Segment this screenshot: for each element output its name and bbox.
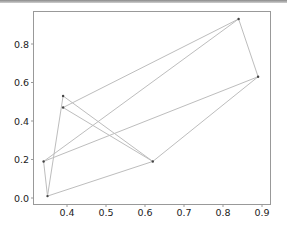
line-segment xyxy=(48,96,64,196)
y-tick-label: 0.8 xyxy=(14,39,29,50)
data-point xyxy=(257,76,259,78)
y-tick-label: 0.0 xyxy=(14,193,29,204)
data-point xyxy=(42,160,44,162)
data-point xyxy=(46,195,48,197)
line-chart: 0.40.50.60.70.80.9 0.00.20.40.60.8 xyxy=(0,0,287,226)
x-tick-label: 0.9 xyxy=(254,207,269,218)
line-segment xyxy=(44,161,48,196)
line-segment xyxy=(44,19,239,161)
line-segment xyxy=(63,96,153,161)
x-tick-label: 0.4 xyxy=(59,207,74,218)
data-point xyxy=(62,106,64,108)
line-segment xyxy=(63,108,153,162)
line-segment xyxy=(153,77,258,162)
data-point xyxy=(62,95,64,97)
plot-frame xyxy=(34,12,271,205)
plot-markers xyxy=(42,18,259,198)
plot-lines xyxy=(44,19,259,196)
y-tick-label: 0.6 xyxy=(14,77,29,88)
x-axis: 0.40.50.60.70.80.9 xyxy=(59,205,269,219)
y-tick-label: 0.2 xyxy=(14,154,29,165)
line-segment xyxy=(63,19,239,108)
x-tick-label: 0.5 xyxy=(98,207,113,218)
y-tick-label: 0.4 xyxy=(14,116,29,127)
x-tick-label: 0.7 xyxy=(176,207,191,218)
x-tick-label: 0.8 xyxy=(215,207,230,218)
y-axis: 0.00.20.40.60.8 xyxy=(14,39,34,204)
line-segment xyxy=(239,19,259,77)
x-tick-label: 0.6 xyxy=(137,207,152,218)
line-segment xyxy=(44,77,259,162)
data-point xyxy=(152,160,154,162)
data-point xyxy=(237,18,239,20)
line-segment xyxy=(48,161,153,196)
